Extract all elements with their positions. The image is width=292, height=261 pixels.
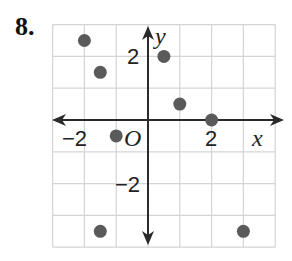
data-point (173, 98, 186, 111)
data-point (78, 34, 91, 47)
origin-label: O (124, 125, 141, 151)
data-point (94, 225, 107, 238)
y-axis-label: y (153, 23, 166, 49)
data-points (78, 34, 250, 238)
scatter-plot: x y O −2 2 2 −2 (0, 0, 292, 261)
x-tick-label-2: 2 (205, 126, 217, 151)
data-point (157, 50, 170, 63)
data-point (237, 225, 250, 238)
y-tick-label-2: 2 (127, 44, 139, 69)
axis-labels: x y O −2 2 2 −2 (62, 23, 263, 197)
data-point (94, 66, 107, 79)
data-point (110, 129, 123, 142)
data-point (205, 114, 218, 127)
x-tick-label-neg2: −2 (62, 126, 87, 151)
y-tick-label-neg2: −2 (115, 172, 140, 197)
x-axis-label: x (251, 125, 263, 151)
